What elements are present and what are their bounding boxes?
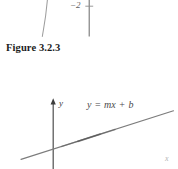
equation-intercept-term: b [128, 99, 133, 110]
equation-lhs: y [87, 99, 91, 110]
equation-slope-term: mx [104, 99, 116, 110]
fragment-tick-label: −2 [70, 0, 81, 10]
figure-caption: Figure 3.2.3 [6, 42, 60, 53]
plotted-line-shading-core [78, 134, 100, 141]
fragment-curve-line [42, 0, 47, 37]
equation-equals-sign: = [94, 99, 102, 110]
equation-annotation: y = mx + b [87, 99, 133, 110]
y-axis-arrowhead [51, 98, 56, 104]
top-fragment-group [42, 0, 93, 37]
equation-plus-sign: + [118, 99, 126, 110]
x-axis-label: x [165, 154, 169, 163]
y-axis-label: y [59, 98, 63, 108]
figure-vector-layer [0, 0, 178, 169]
figure-page: −2 Figure 3.2.3 y x y = mx + b [0, 0, 178, 169]
